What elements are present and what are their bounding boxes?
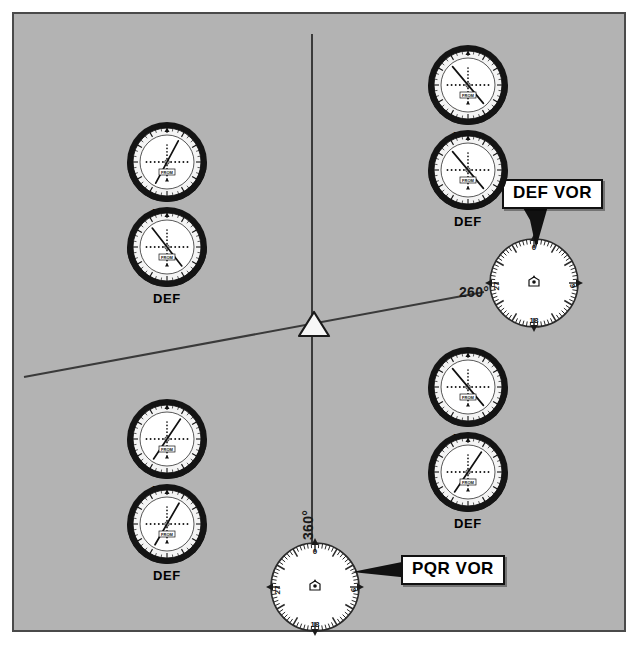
- def-rose-label-9: 9: [568, 284, 577, 289]
- cdi-bottom-right-def[interactable]: 36912151821242730330FROM DEF: [425, 429, 511, 531]
- pqr-rose-label-0: 0: [313, 547, 318, 556]
- cdi-label: DEF: [425, 516, 511, 531]
- svg-text:FROM: FROM: [462, 178, 474, 183]
- pqr-rose-label-18: 18: [311, 620, 320, 629]
- diagram-page: 260° 360° 0 9 18 27: [0, 0, 642, 646]
- svg-text:FROM: FROM: [161, 532, 173, 537]
- svg-text:FROM: FROM: [462, 480, 474, 485]
- svg-text:FROM: FROM: [462, 395, 474, 400]
- def-vor-pointer: [514, 204, 584, 264]
- cdi-top-right-def[interactable]: 36912151821242730330FROM DEF: [425, 127, 511, 229]
- cdi-label: DEF: [124, 568, 210, 583]
- def-vor-callout[interactable]: DEF VOR: [502, 179, 603, 209]
- svg-text:FROM: FROM: [462, 93, 474, 98]
- pqr-vor-rose: 0 9 18 27: [260, 532, 370, 646]
- aircraft-position-symbol: [297, 310, 331, 338]
- cdi-top-left-def[interactable]: 36912151821242730330FROM DEF: [124, 204, 210, 306]
- pqr-vor-callout[interactable]: PQR VOR: [401, 555, 505, 585]
- cdi-label: DEF: [124, 291, 210, 306]
- pqr-rose-label-27: 27: [273, 585, 282, 594]
- diagram-panel: 260° 360° 0 9 18 27: [12, 12, 626, 632]
- radial-260-line: [24, 292, 484, 377]
- def-rose-label-27: 27: [492, 281, 501, 290]
- pqr-rose-label-9: 9: [349, 588, 358, 593]
- cdi-bottom-left-def[interactable]: 36912151821242730330FROM DEF: [124, 481, 210, 583]
- cdi-label: DEF: [425, 214, 511, 229]
- def-rose-label-18: 18: [530, 316, 539, 325]
- svg-text:FROM: FROM: [161, 170, 173, 175]
- svg-text:FROM: FROM: [161, 255, 173, 260]
- svg-text:FROM: FROM: [161, 447, 173, 452]
